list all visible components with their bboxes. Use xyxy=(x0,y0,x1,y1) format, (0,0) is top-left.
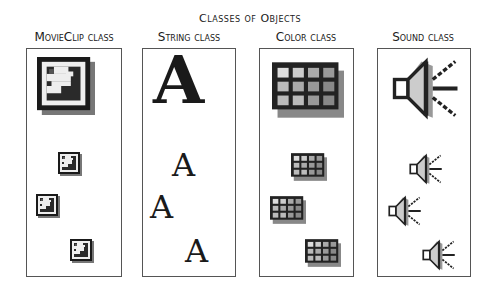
sound-class-label: Sound class xyxy=(368,30,478,44)
color-class-box xyxy=(259,48,354,277)
color-grid-icon xyxy=(272,62,344,118)
diagram-title: Classes of Objects xyxy=(0,12,500,25)
color-grid-instance-icon xyxy=(270,196,306,224)
letter-a-instance-icon: A xyxy=(150,191,173,223)
movieclip-instance-icon xyxy=(70,239,94,263)
speaker-icon xyxy=(390,57,462,120)
color-grid-instance-icon xyxy=(305,239,341,267)
movieclip-class-label: MovieClip class xyxy=(18,30,130,44)
sound-class-box xyxy=(377,48,471,277)
movieclip-instance-icon xyxy=(36,194,60,218)
movieclip-icon xyxy=(37,57,95,115)
movieclip-instance-icon xyxy=(58,152,82,176)
letter-a-instance-icon: A xyxy=(185,235,208,267)
speaker-instance-icon xyxy=(408,153,444,185)
movieclip-class-box xyxy=(26,48,122,277)
string-class-box: A A A A xyxy=(142,48,236,277)
letter-a-icon: A xyxy=(153,47,204,113)
letter-a-instance-icon: A xyxy=(172,149,195,181)
speaker-instance-icon xyxy=(387,195,423,227)
color-class-label: Color class xyxy=(252,30,360,44)
color-grid-instance-icon xyxy=(291,153,327,181)
speaker-instance-icon xyxy=(421,239,457,271)
